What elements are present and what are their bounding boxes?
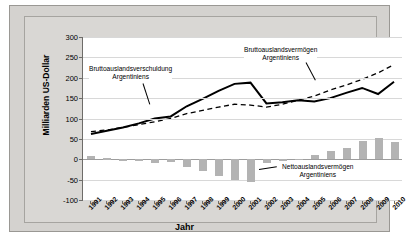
chart-inner-frame: Milliarden US-Dollar -100-50050100150200… xyxy=(24,16,377,223)
y-tick-label: 0 xyxy=(74,155,78,164)
y-tick-mark xyxy=(79,78,83,79)
plot-area xyxy=(82,37,402,200)
annotation-bruttoauslandsverschuldung: Bruttoauslandsverschuldung Argentiniens xyxy=(89,65,172,81)
bar-nettoauslandsvermoegen xyxy=(87,156,95,159)
bar-nettoauslandsvermoegen xyxy=(167,159,175,161)
bar-nettoauslandsvermoegen xyxy=(263,159,271,163)
bar-nettoauslandsvermoegen xyxy=(231,159,239,180)
y-tick-mark xyxy=(79,98,83,99)
annotation-nettoauslandsvermoegen: Nettoauslandsvermögen Argentiniens xyxy=(282,163,353,179)
bar-nettoauslandsvermoegen xyxy=(103,158,111,160)
y-tick-label: -50 xyxy=(67,175,78,184)
annotation-assets-line2: Argentiniens xyxy=(244,54,317,62)
bar-nettoauslandsvermoegen xyxy=(119,159,127,161)
y-tick-label: 200 xyxy=(65,73,78,82)
bar-nettoauslandsvermoegen xyxy=(295,159,303,161)
y-tick-label: -100 xyxy=(63,196,78,205)
y-tick-label: 100 xyxy=(65,114,78,123)
y-tick-mark xyxy=(79,37,83,38)
bar-nettoauslandsvermoegen xyxy=(183,159,191,167)
bar-nettoauslandsvermoegen xyxy=(215,159,223,176)
bar-nettoauslandsvermoegen xyxy=(199,159,207,171)
y-tick-label: 300 xyxy=(65,33,78,42)
annotation-net-line1: Nettoauslandsvermögen xyxy=(282,163,353,171)
gridline xyxy=(83,139,402,140)
bar-nettoauslandsvermoegen xyxy=(151,159,159,163)
y-tick-mark xyxy=(79,159,83,160)
gridline xyxy=(83,57,402,58)
y-tick-mark xyxy=(79,119,83,120)
annotation-assets-line1: Bruttoauslandsvermögen xyxy=(244,46,317,54)
y-tick-label: 150 xyxy=(65,94,78,103)
y-tick-label: 50 xyxy=(70,134,78,143)
bar-nettoauslandsvermoegen xyxy=(375,138,383,159)
zero-line xyxy=(83,159,402,160)
bar-nettoauslandsvermoegen xyxy=(247,159,255,181)
y-tick-mark xyxy=(79,57,83,58)
bar-nettoauslandsvermoegen xyxy=(343,148,351,159)
bar-nettoauslandsvermoegen xyxy=(279,159,287,161)
y-tick-label: 250 xyxy=(65,53,78,62)
line-bruttoauslandsverschuldung xyxy=(91,82,394,134)
annotation-net-line2: Argentiniens xyxy=(282,171,353,179)
y-tick-mark xyxy=(79,139,83,140)
bar-nettoauslandsvermoegen xyxy=(359,141,367,159)
x-axis-title: Jahr xyxy=(175,222,194,232)
annotation-debt-line1: Bruttoauslandsverschuldung xyxy=(89,65,172,73)
x-axis-tick-labels: 1991199219931994199519961997199819992000… xyxy=(82,201,402,231)
y-axis-tick-labels: -100-50050100150200250300 xyxy=(45,37,78,200)
annotation-bruttoauslandsvermoegen: Bruttoauslandsvermögen Argentiniens xyxy=(244,46,317,62)
annotation-debt-line2: Argentiniens xyxy=(89,73,172,81)
gridline xyxy=(83,98,402,99)
gridline xyxy=(83,119,402,120)
bar-nettoauslandsvermoegen xyxy=(135,159,143,161)
chart-outer-frame: Milliarden US-Dollar -100-50050100150200… xyxy=(9,5,390,232)
bar-nettoauslandsvermoegen xyxy=(311,155,319,159)
gridline xyxy=(83,37,402,38)
y-tick-mark xyxy=(79,180,83,181)
gridline xyxy=(83,180,402,181)
bar-nettoauslandsvermoegen xyxy=(327,151,335,160)
bar-nettoauslandsvermoegen xyxy=(391,142,399,159)
